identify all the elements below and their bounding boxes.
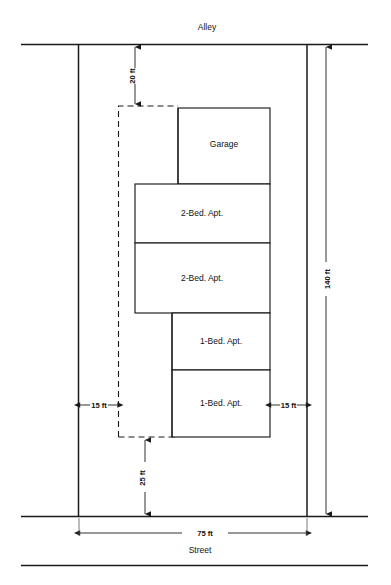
building-one-bed-apt-lower: 1-Bed. Apt.	[172, 370, 270, 437]
building-one-bed-apt-upper: 1-Bed. Apt.	[172, 313, 270, 370]
lot-depth-label: 140 ft	[323, 269, 332, 289]
side-right-label: 15 ft	[281, 401, 297, 410]
building-garage: Garage	[178, 108, 270, 184]
site-plan-diagram: Alley Street Garage 2-Bed. Apt. 2-Bed. A…	[0, 0, 391, 585]
one-bed-apt-upper-label: 1-Bed. Apt.	[200, 336, 242, 346]
two-bed-apt-lower-label: 2-Bed. Apt.	[181, 273, 223, 283]
lot-width-label: 75 ft	[197, 529, 213, 538]
two-bed-apt-upper-label: 2-Bed. Apt.	[181, 208, 223, 218]
alley-label: Alley	[198, 22, 217, 32]
building-two-bed-apt-upper: 2-Bed. Apt.	[135, 184, 270, 243]
front-setback-label: 20 ft	[128, 68, 137, 84]
street-label: Street	[189, 545, 212, 555]
garage-label: Garage	[210, 139, 239, 149]
building-two-bed-apt-lower: 2-Bed. Apt.	[135, 243, 270, 313]
side-left-label: 15 ft	[91, 401, 107, 410]
one-bed-apt-lower-label: 1-Bed. Apt.	[200, 398, 242, 408]
rear-setback-label: 25 ft	[138, 470, 147, 486]
